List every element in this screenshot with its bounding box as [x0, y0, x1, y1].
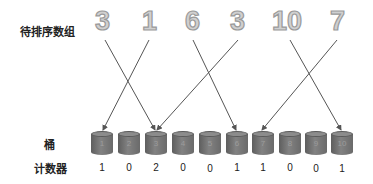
counter-value: 0: [172, 162, 194, 173]
counter-value: 0: [199, 163, 221, 174]
counter-value: 1: [91, 162, 113, 173]
bucket-3: 3: [145, 131, 167, 157]
counter-value: 1: [252, 162, 274, 173]
bucket-6: 6: [226, 131, 248, 157]
bucket-9: 9: [305, 131, 327, 157]
counter-value: 2: [145, 162, 167, 173]
counter-value: 1: [331, 163, 353, 174]
bucket-8: 8: [279, 131, 301, 157]
bucket-7: 7: [252, 131, 274, 157]
bucket-4: 4: [172, 131, 194, 157]
bucket-2: 2: [118, 131, 140, 157]
bucket-5: 5: [199, 131, 221, 157]
counter-value: 0: [305, 163, 327, 174]
bucket-1: 1: [91, 131, 113, 157]
counter-value: 0: [279, 162, 301, 173]
bucket-10: 10: [331, 131, 353, 157]
counter-value: 1: [226, 162, 248, 173]
counter-value: 0: [118, 162, 140, 173]
